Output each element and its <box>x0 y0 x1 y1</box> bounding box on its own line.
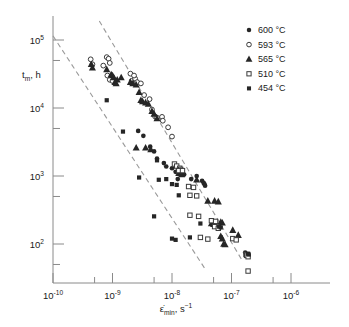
data-point <box>174 238 178 242</box>
data-point <box>132 73 137 78</box>
legend-label: 600 °C <box>258 25 286 35</box>
x-tick-label: 10-8 <box>164 289 181 301</box>
data-point <box>188 213 192 217</box>
data-point <box>118 74 125 81</box>
data-point <box>196 214 200 218</box>
series-565-c <box>88 60 242 247</box>
x-tick-label: 10-9 <box>104 289 121 301</box>
data-point <box>188 193 192 197</box>
data-point <box>195 194 199 198</box>
data-point <box>188 235 192 239</box>
data-point <box>175 183 179 187</box>
data-point <box>234 238 238 242</box>
y-tick-label: 103 <box>30 170 45 182</box>
legend-label: 454 °C <box>258 83 286 93</box>
data-point <box>193 176 200 183</box>
x-tick-label: 10-6 <box>283 289 300 301</box>
y-tick-label: 104 <box>30 102 45 114</box>
x-tick-label: 10-10 <box>43 289 63 301</box>
x-tick-label: 10-7 <box>223 289 240 301</box>
data-point <box>219 225 223 229</box>
y-axis-title: tm, h <box>22 69 41 82</box>
legend-marker-open-square <box>247 72 251 76</box>
data-point <box>155 158 159 162</box>
data-point <box>152 214 156 218</box>
y-tick-label: 105 <box>30 34 45 46</box>
data-point <box>198 235 202 239</box>
data-point <box>247 252 251 256</box>
data-point <box>170 182 174 186</box>
data-point <box>198 221 202 225</box>
legend-marker-filled-triangle <box>246 55 253 61</box>
trendlines-group <box>53 21 242 269</box>
data-point <box>164 177 168 181</box>
data-point <box>170 237 174 241</box>
legend-label: 565 °C <box>258 54 286 64</box>
x-axis-title: ε̇min, s−1 <box>160 302 193 316</box>
axis-titles-group: tm, hε̇min, s−1 <box>22 69 193 316</box>
data-point <box>160 118 165 123</box>
data-point <box>137 175 141 179</box>
data-point <box>157 178 161 182</box>
chart-legend[interactable]: 600 °C593 °C565 °C510 °C454 °C <box>246 25 287 93</box>
data-point <box>141 133 146 138</box>
data-point <box>121 129 125 133</box>
data-point <box>136 88 143 95</box>
data-point <box>101 63 106 68</box>
data-point <box>186 184 190 188</box>
data-point <box>166 125 171 130</box>
legend-marker-filled-square <box>247 86 251 90</box>
trendline-lower-bound <box>53 36 205 269</box>
data-point <box>138 81 143 86</box>
data-point <box>213 219 217 223</box>
data-points-group <box>88 55 251 274</box>
data-point <box>191 185 195 189</box>
data-point <box>229 226 236 233</box>
scatter-plot-canvas: 10510410310210-1010-910-810-710-6 tm, hε… <box>0 0 349 327</box>
legend-item-565-c[interactable]: 565 °C <box>246 54 287 64</box>
legend-label: 593 °C <box>258 40 286 50</box>
legend-marker-open-circle <box>247 42 252 47</box>
series-510-c <box>172 162 250 273</box>
plot-axes <box>53 16 330 283</box>
legend-item-593-c[interactable]: 593 °C <box>247 40 286 50</box>
series-593-c <box>88 55 174 139</box>
data-point <box>180 168 184 172</box>
legend-item-600-c[interactable]: 600 °C <box>247 25 286 35</box>
data-point <box>206 237 210 241</box>
legend-item-510-c[interactable]: 510 °C <box>247 69 286 79</box>
legend-label: 510 °C <box>258 69 286 79</box>
data-point <box>175 177 180 182</box>
data-point <box>164 164 169 169</box>
y-tick-label: 102 <box>30 238 45 250</box>
legend-marker-filled-circle <box>247 28 252 33</box>
chart-figure: 10510410310210-1010-910-810-710-6 tm, hε… <box>0 0 349 327</box>
data-point <box>107 61 112 66</box>
data-point <box>136 129 141 134</box>
data-point <box>88 57 93 62</box>
data-point <box>105 98 109 102</box>
data-point <box>189 177 194 182</box>
data-point <box>170 134 175 139</box>
data-point <box>177 193 181 197</box>
data-point <box>133 144 140 151</box>
data-point <box>203 183 208 188</box>
data-point <box>246 269 250 273</box>
legend-item-454-c[interactable]: 454 °C <box>247 83 286 93</box>
